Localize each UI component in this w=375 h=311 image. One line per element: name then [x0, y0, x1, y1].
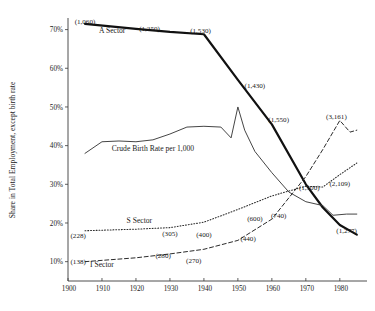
x-tick-label: 1960 — [266, 285, 281, 293]
series-inline-labels: A SectorCrude Birth Rate per 1,000S Sect… — [90, 26, 194, 269]
data-point-label: (1,250) — [139, 25, 160, 33]
series-layer — [85, 24, 357, 262]
x-axis-ticks: 190019101920193019401950196019701980 — [62, 278, 349, 293]
data-point-label: (2,109) — [329, 180, 350, 188]
series-name-label: Crude Birth Rate per 1,000 — [112, 144, 195, 153]
x-tick-label: 1930 — [164, 285, 179, 293]
y-tick-label: 30% — [50, 181, 63, 189]
x-tick-label: 1980 — [334, 285, 349, 293]
y-tick-label: 70% — [50, 26, 63, 34]
data-point-label: (305) — [162, 230, 178, 238]
x-tick-label: 1920 — [130, 285, 145, 293]
data-point-label: (600) — [247, 215, 263, 223]
y-tick-label: 40% — [50, 142, 63, 150]
y-tick-label: 10% — [50, 258, 63, 266]
x-tick-label: 1940 — [198, 285, 213, 293]
line-chart: 10%20%30%40%50%60%70% Share in Total Emp… — [0, 0, 375, 311]
x-tick-label: 1950 — [232, 285, 247, 293]
data-point-label: (1,530) — [190, 27, 211, 35]
data-point-label: (138) — [71, 258, 87, 266]
data-point-label: (1,500) — [299, 184, 320, 192]
x-tick-label: 1910 — [96, 285, 111, 293]
y-tick-label: 50% — [50, 104, 63, 112]
series-name-label: S Sector — [127, 216, 153, 225]
y-axis: 10%20%30%40%50%60%70% Share in Total Emp… — [8, 18, 68, 281]
data-point-label: (270) — [186, 257, 202, 265]
x-axis: 190019101920193019401950196019701980 — [62, 278, 367, 293]
data-point-label: (1,550) — [268, 116, 289, 124]
chart-container: 10%20%30%40%50%60%70% Share in Total Emp… — [0, 0, 375, 311]
x-tick-label: 1900 — [62, 285, 77, 293]
data-point-label: (228) — [71, 232, 87, 240]
series-line — [85, 24, 357, 235]
x-tick-label: 1970 — [300, 285, 315, 293]
data-point-label: (740) — [271, 212, 287, 220]
series-name-label: A Sector — [99, 26, 126, 35]
point-labels-layer: (1,060)(1,250)(1,530)(1,430)(1,550)(1,50… — [71, 18, 358, 267]
data-point-label: (280) — [155, 252, 171, 260]
data-point-label: (1,277) — [336, 227, 357, 235]
y-tick-label: 20% — [50, 220, 63, 228]
y-axis-ticks: 10%20%30%40%50%60%70% — [50, 26, 68, 266]
data-point-label: (1,060) — [75, 18, 96, 26]
data-point-label: (440) — [240, 235, 256, 243]
series-name-label: I Sector — [90, 260, 114, 269]
data-point-label: (400) — [196, 231, 212, 239]
data-point-label: (3,161) — [326, 113, 347, 121]
y-axis-title: Share in Total Employment, except birth … — [8, 81, 17, 218]
data-point-label: (1,430) — [245, 82, 266, 90]
y-tick-label: 60% — [50, 65, 63, 73]
